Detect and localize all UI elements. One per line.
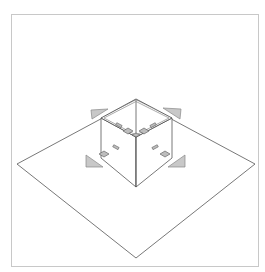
isometric-scene [0, 0, 265, 272]
triangle-marker-bottom-left [86, 155, 103, 167]
